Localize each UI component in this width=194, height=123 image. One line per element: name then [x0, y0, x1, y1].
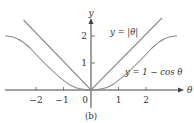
y-ticks [91, 36, 95, 63]
x-tick-label: −1 [55, 95, 68, 105]
x-axis-arrow-icon [178, 88, 184, 93]
origin-label: 0 [82, 95, 88, 105]
y-tick-label: 1 [81, 58, 87, 68]
x-tick-label: 1 [116, 95, 122, 105]
figure-caption: (b) [85, 111, 97, 121]
y-axis-arrow-icon [89, 18, 94, 24]
x-axis-label: θ [187, 85, 193, 95]
x-tick-label: 2 [143, 95, 149, 105]
y-axis-label: y [87, 8, 94, 18]
y-tick-label: 2 [81, 31, 87, 41]
chart: −2 −1 0 1 2 1 2 y θ y = |θ| y = 1 − cos … [0, 0, 194, 123]
abs-theta-curve [24, 18, 163, 90]
abs-curve-label: y = |θ| [109, 27, 138, 38]
cos-curve-label: y = 1 − cos θ [124, 67, 182, 77]
x-tick-label: −2 [29, 95, 42, 105]
